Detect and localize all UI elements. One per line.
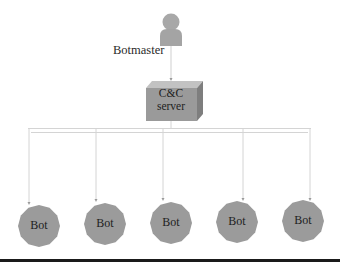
- cc-server-label: C&C server: [146, 87, 196, 113]
- cc-server-label-line1: C&C: [146, 87, 196, 100]
- bottom-rule-divider: [0, 259, 340, 262]
- bot-label-5: Bot: [283, 213, 323, 228]
- bot-label-3: Bot: [151, 215, 191, 230]
- cc-server-label-line2: server: [146, 100, 196, 113]
- botmaster-to-cc-connector: [170, 46, 173, 81]
- bot-label-4: Bot: [217, 214, 257, 229]
- person-icon: [160, 14, 182, 47]
- bot-label-2: Bot: [85, 216, 125, 231]
- cc-to-bots-connectors: [28, 121, 311, 203]
- bot-label-1: Bot: [19, 218, 59, 233]
- botmaster-label: Botmaster: [113, 43, 164, 58]
- botnet-diagram: Botmaster C&C server Bot Bot Bot Bot Bot: [0, 0, 340, 263]
